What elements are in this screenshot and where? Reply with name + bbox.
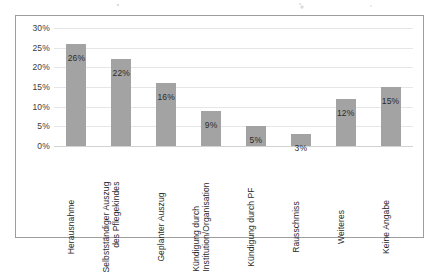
bar[interactable]: 16%	[156, 83, 176, 146]
category-label-line: des Pflegekindes	[111, 181, 121, 272]
x-axis-category-label: Kündigung durch PF	[246, 187, 256, 266]
category-label-line: Kündigung durch PF	[246, 187, 256, 266]
bar[interactable]: 15%	[381, 87, 401, 146]
y-axis-tick: 30%	[32, 23, 50, 33]
category-label-line: Selbstständiger Auszug	[101, 181, 111, 272]
y-axis-tick: 25%	[32, 43, 50, 53]
y-axis-tick: 0%	[37, 141, 50, 151]
bar[interactable]: 26%	[66, 44, 86, 146]
bar-value-label: 26%	[68, 53, 86, 63]
category-label-line: Institution/Organisation	[201, 182, 211, 271]
x-axis-category-labels: HerausnahmeSelbstständiger Auszugdes Pfl…	[54, 149, 413, 233]
bar-value-label: 16%	[157, 92, 175, 102]
category-slot: Kündigung durch PF	[234, 149, 279, 233]
bar-slot: 12%	[323, 28, 368, 146]
category-label-line: Kündigung durch	[191, 206, 201, 272]
plot-area: 26%22%16%9%5%3%12%15%	[54, 28, 413, 146]
category-slot: Herausnahme	[54, 149, 99, 233]
category-slot: Kündigung durchInstitution/Organisation	[189, 149, 234, 233]
bar-slot: 22%	[99, 28, 144, 146]
y-axis-tick: 20%	[32, 62, 50, 72]
bar[interactable]: 12%	[336, 99, 356, 146]
x-axis-category-label: Rausschmiss	[291, 201, 301, 253]
bar-slot: 9%	[189, 28, 234, 146]
category-label-line: Keine Angabe	[381, 200, 391, 254]
category-slot: Weiteres	[323, 149, 368, 233]
bar-slot: 16%	[144, 28, 189, 146]
category-label-line: Rausschmiss	[291, 201, 301, 253]
y-axis-tick-labels: 30%25%20%15%10%5%0%	[20, 28, 50, 146]
y-axis-tick: 10%	[32, 102, 50, 112]
category-slot: Geplanter Auszug	[144, 149, 189, 233]
bar-value-label: 5%	[250, 135, 263, 145]
bar-slot: 5%	[234, 28, 279, 146]
scan-artifact-band	[0, 0, 440, 13]
bar[interactable]: 9%	[201, 111, 221, 146]
bar[interactable]: 5%	[246, 126, 266, 146]
bar-value-label: 9%	[205, 120, 218, 130]
category-label-line: Geplanter Auszug	[156, 192, 166, 261]
bar-value-label: 15%	[382, 96, 400, 106]
y-axis-tick: 5%	[37, 121, 50, 131]
bar-value-label: 12%	[337, 108, 355, 118]
bar-slot: 15%	[368, 28, 413, 146]
chart-frame: 30%25%20%15%10%5%0% 26%22%16%9%5%3%12%15…	[15, 15, 424, 238]
category-label-line: Herausnahme	[66, 200, 76, 255]
y-axis-tick: 15%	[32, 82, 50, 92]
x-axis-category-label: Selbstständiger Auszugdes Pflegekindes	[101, 181, 121, 272]
x-axis-category-label: Kündigung durchInstitution/Organisation	[191, 182, 211, 271]
bar-value-label: 22%	[113, 68, 131, 78]
x-axis-category-label: Geplanter Auszug	[156, 192, 166, 261]
x-axis-category-label: Weiteres	[336, 210, 346, 244]
x-axis-category-label: Keine Angabe	[381, 200, 391, 254]
bar[interactable]: 3%	[291, 134, 311, 146]
bar-series: 26%22%16%9%5%3%12%15%	[54, 28, 413, 146]
category-slot: Rausschmiss	[278, 149, 323, 233]
bar[interactable]: 22%	[111, 59, 131, 146]
category-label-line: Weiteres	[336, 210, 346, 244]
chart-plot-wrapper: 30%25%20%15%10%5%0% 26%22%16%9%5%3%12%15…	[16, 16, 423, 237]
category-slot: Keine Angabe	[368, 149, 413, 233]
x-axis-category-label: Herausnahme	[66, 200, 76, 255]
bar-slot: 26%	[54, 28, 99, 146]
axis-baseline	[54, 146, 413, 147]
bar-slot: 3%	[278, 28, 323, 146]
category-slot: Selbstständiger Auszugdes Pflegekindes	[99, 149, 144, 233]
